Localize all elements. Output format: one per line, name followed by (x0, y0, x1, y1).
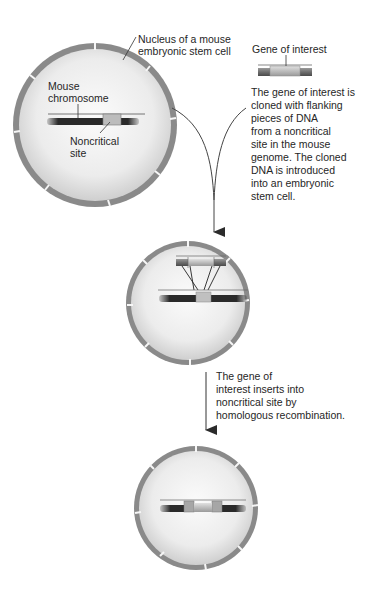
step2-caption: The gene of interest inserts into noncri… (216, 370, 345, 422)
nucleus-2 (126, 241, 250, 365)
gene-construct (258, 55, 312, 76)
mouse-chromosome (47, 118, 139, 125)
mouse-chromosome-label: Mouse chromosome (48, 80, 109, 104)
step1-caption: The gene of interest is cloned with flan… (251, 86, 355, 203)
noncritical-site-label: Noncritical site (70, 135, 119, 159)
nucleus-3 (134, 446, 258, 570)
converging-arrow (172, 108, 246, 232)
nucleus-1 (13, 37, 177, 207)
gene-of-interest-label: Gene of interest (252, 43, 327, 55)
noncritical-site-segment (103, 114, 121, 125)
nucleus-label: Nucleus of a mouse embryonic stem cell (138, 33, 231, 57)
